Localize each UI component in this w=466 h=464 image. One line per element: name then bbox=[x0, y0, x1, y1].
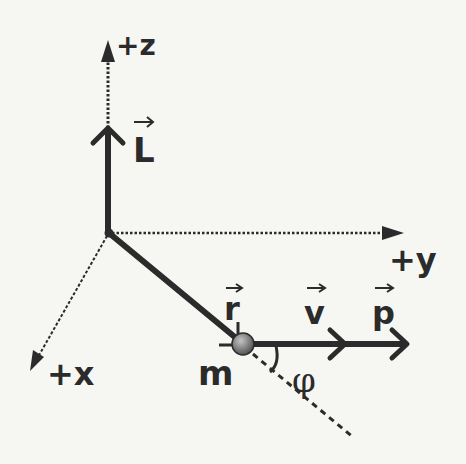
point-mass bbox=[232, 333, 254, 355]
origin-point bbox=[105, 229, 114, 238]
r-vector-label: r bbox=[224, 290, 240, 328]
x-axis-arrowhead-icon bbox=[30, 350, 44, 371]
p-vector-label: p bbox=[372, 294, 395, 332]
angular-momentum-vector bbox=[93, 128, 123, 233]
z-axis bbox=[101, 40, 115, 128]
angular-momentum-diagram: +z +y +x L r v p φ m bbox=[0, 0, 466, 464]
y-axis bbox=[112, 226, 404, 240]
y-axis-arrowhead-icon bbox=[382, 226, 404, 240]
x-axis bbox=[30, 236, 107, 371]
velocity-momentum-vector bbox=[248, 330, 407, 358]
l-vector-label: L bbox=[133, 130, 155, 170]
x-axis-label: +x bbox=[47, 355, 95, 393]
z-axis-arrowhead-icon bbox=[101, 40, 115, 62]
z-axis-label: +z bbox=[116, 29, 156, 62]
y-axis-label: +y bbox=[389, 241, 437, 279]
v-vector-label: v bbox=[304, 294, 325, 332]
angle-label: φ bbox=[292, 360, 316, 400]
position-vector bbox=[109, 233, 238, 345]
mass-label: m bbox=[198, 353, 233, 393]
